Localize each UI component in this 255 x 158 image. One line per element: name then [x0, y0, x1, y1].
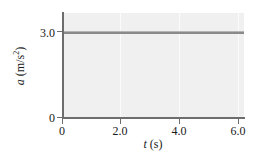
y-axis-line — [62, 12, 64, 119]
gridline-vertical-6 — [238, 13, 239, 118]
gridline-vertical-4 — [179, 13, 180, 118]
y-axis-title-unit-close: ) — [13, 46, 27, 50]
x-ticklabel-6: 6.0 — [218, 124, 255, 138]
x-ticklabel-2: 2.0 — [100, 124, 140, 138]
x-ticklabel-4: 4.0 — [159, 124, 199, 138]
plot-area — [62, 13, 244, 118]
y-axis-title-unit: (m/s — [13, 54, 27, 75]
x-ticklabel-0: 0 — [42, 124, 82, 138]
y-tick-3 — [57, 31, 63, 32]
gridline-vertical-2 — [120, 13, 121, 118]
x-axis-title-unit: (s) — [150, 137, 163, 151]
y-axis-title-variable: a — [13, 79, 27, 85]
x-axis-title: t (s) — [62, 137, 244, 152]
x-axis-line — [62, 117, 245, 119]
data-series-acceleration — [62, 31, 244, 34]
chart-figure: 0 2.0 4.0 6.0 3.0 0 a (m/s2) t (s) — [0, 0, 255, 158]
y-axis-title: a (m/s2) — [13, 46, 28, 84]
y-tick-0 — [57, 117, 63, 118]
y-axis-title-wrap: a (m/s2) — [13, 13, 27, 118]
